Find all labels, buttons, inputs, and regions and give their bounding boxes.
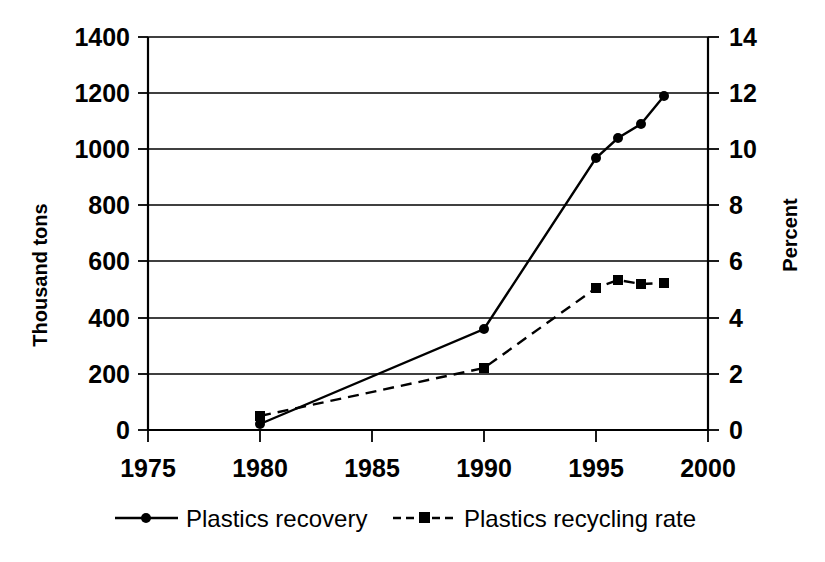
x-axis-ticks — [148, 430, 708, 442]
legend-item-plastics-recovery[interactable]: Plastics recovery — [115, 505, 367, 532]
right-axis-title: Percent — [779, 198, 801, 272]
recycling-rate-marker — [636, 279, 646, 289]
ytick-label: 600 — [88, 247, 130, 275]
xtick-label: 1975 — [120, 454, 176, 482]
legend: Plastics recovery Plastics recycling rat… — [115, 505, 696, 532]
legend-dot-marker-icon — [141, 513, 151, 523]
ytick-label: 0 — [116, 416, 130, 444]
legend-item-plastics-recycling-rate[interactable]: Plastics recycling rate — [393, 505, 696, 532]
y2tick-label: 6 — [729, 247, 743, 275]
recovery-marker — [659, 91, 669, 101]
y2tick-label: 4 — [729, 304, 743, 332]
recycling-rate-marker — [591, 283, 601, 293]
y2tick-label: 0 — [729, 416, 743, 444]
ytick-label: 200 — [88, 360, 130, 388]
recovery-marker — [591, 153, 601, 163]
y2tick-label: 12 — [729, 79, 757, 107]
recycling-rate-marker — [659, 278, 669, 288]
xtick-label: 1980 — [232, 454, 288, 482]
left-axis-ticks — [138, 37, 148, 430]
legend-label: Plastics recovery — [186, 505, 367, 532]
recovery-marker — [255, 419, 265, 429]
legend-label: Plastics recycling rate — [464, 505, 696, 532]
left-axis-tick-labels: 1400 1200 1000 800 600 400 200 0 — [74, 23, 130, 444]
axis-frame — [148, 37, 708, 430]
recycling-rate-line — [260, 280, 664, 416]
ytick-label: 1000 — [74, 135, 130, 163]
left-axis-title: Thousand tons — [29, 203, 51, 346]
ytick-label: 1200 — [74, 79, 130, 107]
y2tick-label: 10 — [729, 135, 757, 163]
xtick-label: 1990 — [456, 454, 512, 482]
xtick-label: 2000 — [680, 454, 736, 482]
recovery-marker — [636, 119, 646, 129]
series-plastics-recovery — [255, 91, 669, 429]
xtick-label: 1985 — [344, 454, 400, 482]
y2tick-label: 8 — [729, 191, 743, 219]
x-axis-tick-labels: 1975 1980 1985 1990 1995 2000 — [120, 454, 736, 482]
ytick-label: 1400 — [74, 23, 130, 51]
xtick-label: 1995 — [568, 454, 624, 482]
y2tick-label: 14 — [729, 23, 757, 51]
recovery-marker — [613, 133, 623, 143]
recycling-rate-marker — [613, 275, 623, 285]
right-axis-ticks — [708, 37, 719, 430]
legend-square-marker-icon — [419, 512, 430, 523]
y2tick-label: 2 — [729, 360, 743, 388]
recycling-rate-marker — [479, 363, 489, 373]
chart-container: 1400 1200 1000 800 600 400 200 0 14 12 1… — [0, 0, 825, 562]
right-axis-tick-labels: 14 12 10 8 6 4 2 0 — [729, 23, 757, 444]
recovery-marker — [479, 324, 489, 334]
gridlines — [148, 37, 708, 374]
line-chart: 1400 1200 1000 800 600 400 200 0 14 12 1… — [0, 0, 825, 562]
ytick-label: 400 — [88, 304, 130, 332]
ytick-label: 800 — [88, 191, 130, 219]
